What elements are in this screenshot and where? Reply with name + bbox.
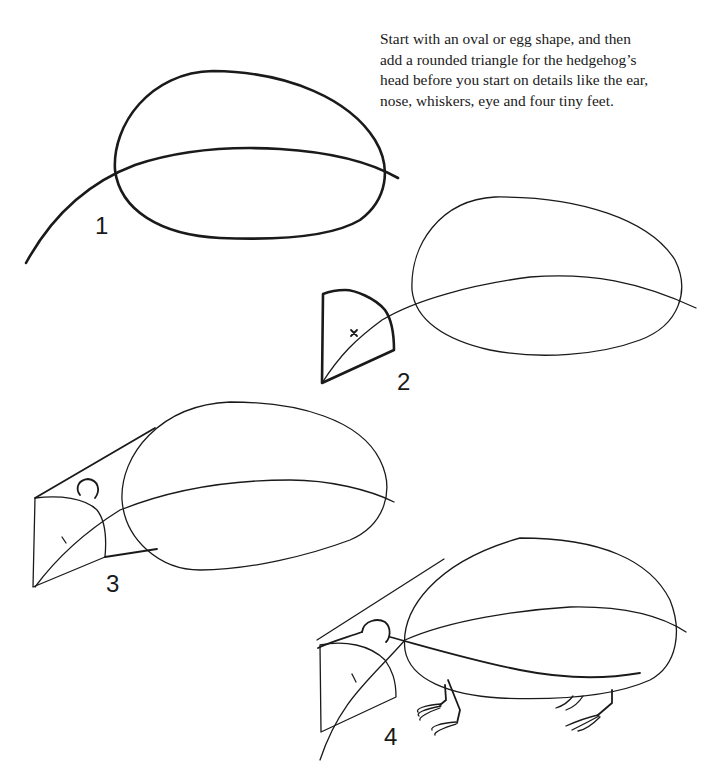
step-3-spine-curve [35,480,394,587]
front-foot [417,685,446,720]
step-2-head-triangle [322,290,394,383]
ear-icon [78,479,98,498]
step-1-drawing: 1 [26,71,398,263]
step-number-3: 3 [106,570,119,597]
step-3-head-outline [33,497,106,587]
step-4-drawing: 4 [317,538,686,760]
step-number-1: 1 [95,212,108,239]
step-4-belly-line [390,637,640,677]
nose-mark-icon [352,674,356,682]
step-1-spine-curve [26,148,398,263]
step-1-oval [115,71,385,239]
step-number-2: 2 [397,368,410,395]
step-3-drawing: 3 [33,402,394,597]
step-3-head-bottom-line [105,549,157,557]
nose-mark-icon [351,330,357,336]
nose-mark-icon [62,537,66,543]
step-2-spine-curve [322,276,696,383]
step-2-drawing: 2 [322,197,696,395]
step-number-4: 4 [384,723,397,750]
ear-icon [362,620,390,642]
step-4-back-line [317,559,444,640]
step-4-spine-curve [320,607,686,760]
step-3-head-top-line [35,428,155,498]
step-4-head-outline [320,643,396,732]
